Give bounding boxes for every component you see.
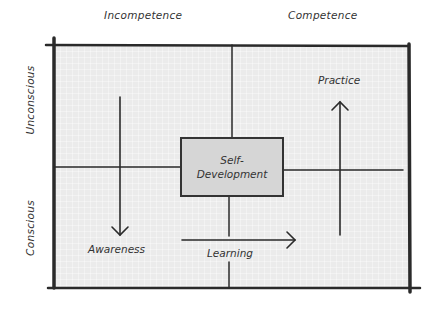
flow-label-practice: Practice xyxy=(318,74,360,86)
flow-label-learning: Learning xyxy=(207,247,253,259)
top-border xyxy=(46,45,409,46)
self-development-box: Self- Development xyxy=(180,137,284,197)
right-border xyxy=(409,44,410,292)
center-box-line1: Self- xyxy=(220,153,243,167)
flow-label-awareness: Awareness xyxy=(88,243,145,255)
center-box-line2: Development xyxy=(197,167,268,181)
